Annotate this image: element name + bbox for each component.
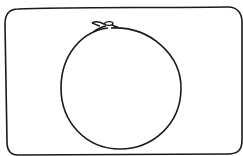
knot-icon [92, 22, 118, 32]
rounded-frame [5, 7, 242, 155]
drawing-canvas [0, 0, 243, 156]
circle-outline [61, 28, 181, 149]
